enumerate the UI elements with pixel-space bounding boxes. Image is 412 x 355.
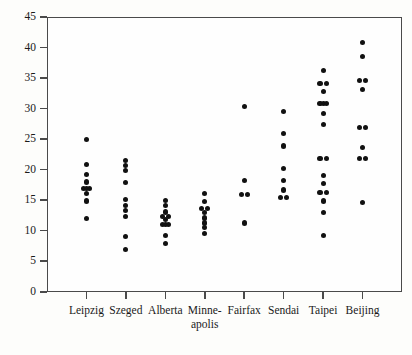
y-tick-label: 15 — [25, 191, 37, 207]
x-tick-label-line2: apolis — [161, 317, 249, 331]
y-tick-mark — [40, 138, 47, 140]
y-tick-mark — [40, 199, 47, 201]
plot-frame — [47, 17, 402, 292]
y-tick-mark — [40, 230, 47, 232]
y-tick-mark — [40, 47, 47, 49]
y-tick-label: 40 — [25, 39, 37, 55]
y-tick-mark — [40, 169, 47, 171]
x-tick-mark — [125, 292, 127, 299]
y-tick-label: 20 — [25, 161, 37, 177]
y-tick-label: 30 — [25, 100, 37, 116]
y-tick-mark — [40, 291, 47, 293]
x-axis: LeipzigSzegedAlbertaMinne-apolisFairfaxS… — [47, 292, 402, 355]
x-tick-mark — [243, 292, 245, 299]
x-tick-mark — [165, 292, 167, 299]
y-tick-label: 0 — [30, 283, 36, 299]
y-tick-label: 25 — [25, 130, 37, 146]
x-tick-label: Beijing — [319, 303, 407, 317]
y-tick-mark — [40, 16, 47, 18]
y-tick-label: 10 — [25, 222, 37, 238]
x-tick-mark — [283, 292, 285, 299]
y-tick-mark — [40, 108, 47, 110]
y-tick-label: 5 — [30, 252, 36, 268]
x-tick-mark — [86, 292, 88, 299]
x-tick-mark — [204, 292, 206, 299]
dot-plot-figure: 051015202530354045 LeipzigSzegedAlbertaM… — [0, 0, 412, 355]
y-axis: 051015202530354045 — [0, 0, 47, 292]
x-tick-mark — [322, 292, 324, 299]
x-tick-mark — [362, 292, 364, 299]
y-tick-mark — [40, 77, 47, 79]
y-tick-mark — [40, 260, 47, 262]
y-tick-label: 35 — [25, 69, 37, 85]
y-tick-label: 45 — [25, 8, 37, 24]
